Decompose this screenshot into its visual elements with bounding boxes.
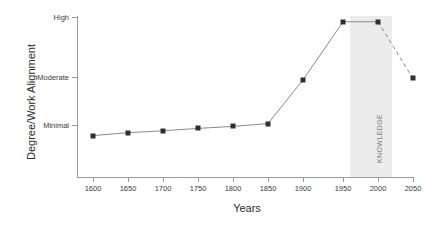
x-axis-title: Years [233, 202, 261, 214]
series-line-solid [93, 22, 378, 136]
data-point-marker [231, 124, 236, 129]
chart-container: Degree/Work Alignment KNOWLEDGE High Mod… [0, 0, 424, 225]
data-point-marker [266, 121, 271, 126]
data-point-marker [126, 130, 131, 135]
data-point-marker [376, 19, 381, 24]
series-lines [0, 0, 424, 225]
data-point-marker [341, 19, 346, 24]
data-point-marker [196, 126, 201, 131]
data-point-marker [91, 133, 96, 138]
data-point-marker [411, 76, 416, 81]
data-point-marker [301, 77, 306, 82]
series-line-dashed [378, 22, 413, 79]
data-point-marker [161, 128, 166, 133]
